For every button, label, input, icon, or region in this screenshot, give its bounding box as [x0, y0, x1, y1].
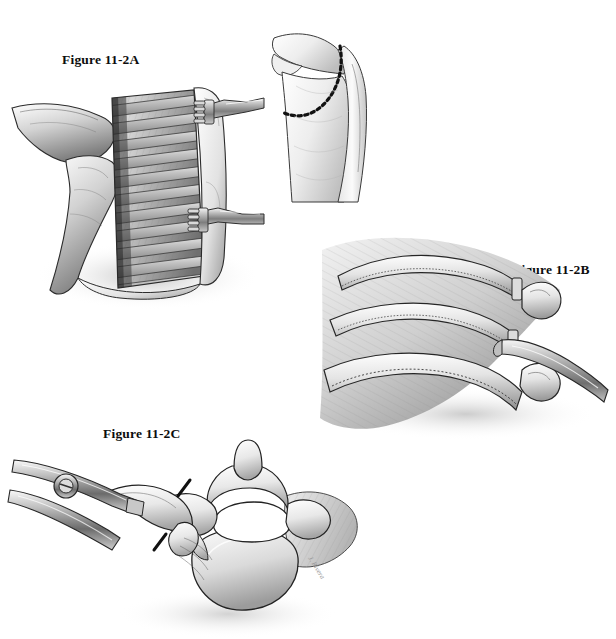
spinous-process: [234, 440, 262, 480]
inset-artwork: [252, 24, 412, 206]
panel-b-artwork: [316, 228, 612, 434]
panel-figure-11-2b: [316, 228, 612, 434]
scapula-flap: [12, 104, 115, 163]
figure-plate: Figure 11-2A: [0, 0, 616, 639]
panel-figure-11-2a: [8, 62, 270, 302]
bone-cutter[interactable]: [8, 460, 144, 550]
panel-c-artwork: J. Rivera: [8, 438, 364, 636]
panel-figure-11-2c: J. Rivera: [8, 438, 364, 636]
rib-head-upper: [522, 282, 561, 319]
spinal-canal: [213, 502, 290, 542]
osteotomy-mark-lower: [154, 534, 166, 550]
panel-a-artwork: [8, 62, 270, 302]
panel-incision-inset: [252, 24, 412, 206]
